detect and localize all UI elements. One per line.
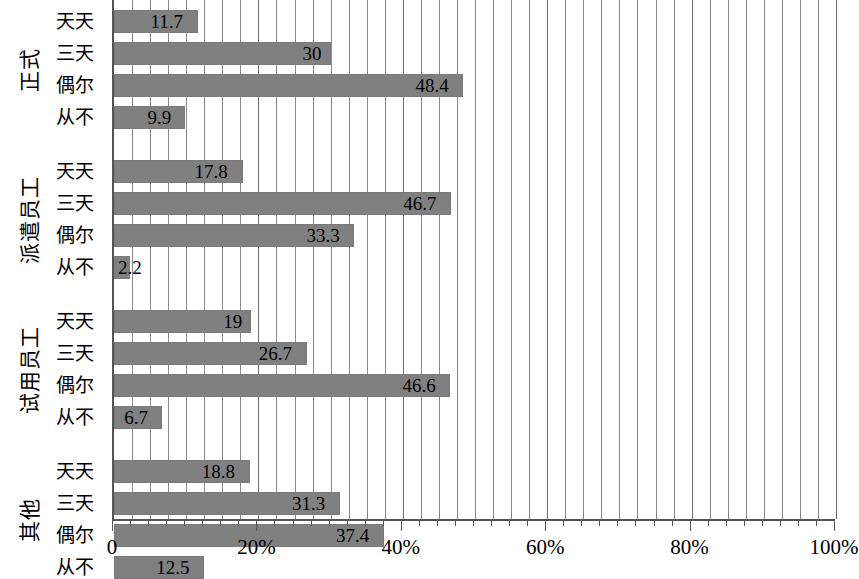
gridline-major bbox=[836, 0, 837, 519]
category-label: 偶尔 bbox=[56, 75, 108, 97]
gridline-minor bbox=[637, 0, 638, 519]
x-tick-minor bbox=[744, 519, 745, 526]
x-tick-minor bbox=[509, 519, 510, 526]
gridline-minor bbox=[764, 0, 765, 519]
group-label: 派遣员工 bbox=[0, 160, 56, 279]
bar-value-label: 17.8 bbox=[193, 160, 228, 183]
bar-value-label: 18.8 bbox=[200, 460, 235, 483]
category-label: 从不 bbox=[56, 407, 108, 429]
gridline-major bbox=[692, 0, 693, 519]
group-label-text: 试用员工 bbox=[13, 326, 43, 414]
x-tick-minor bbox=[780, 519, 781, 526]
x-tick-minor bbox=[166, 519, 167, 526]
gridline-minor bbox=[674, 0, 675, 519]
bar-value-label: 11.7 bbox=[148, 10, 183, 33]
group-label: 其他 bbox=[0, 460, 56, 579]
bar-value-label: 30 bbox=[301, 42, 322, 65]
category-label: 天天 bbox=[56, 161, 108, 183]
x-tick-minor bbox=[672, 519, 673, 526]
x-tick-minor bbox=[599, 519, 600, 526]
bar-value-label: 26.7 bbox=[257, 342, 292, 365]
x-tick-minor bbox=[238, 519, 239, 526]
gridline-minor bbox=[818, 0, 819, 519]
x-tick-minor bbox=[798, 519, 799, 526]
x-tick-minor bbox=[437, 519, 438, 526]
gridline-minor bbox=[782, 0, 783, 519]
category-label: 三天 bbox=[56, 193, 108, 215]
x-tick-minor bbox=[455, 519, 456, 526]
x-tick-major bbox=[401, 519, 402, 531]
bar-value-label: 19 bbox=[221, 310, 242, 333]
gridline-minor bbox=[800, 0, 801, 519]
gridline-minor bbox=[710, 0, 711, 519]
x-tick-minor bbox=[617, 519, 618, 526]
x-tick-minor bbox=[184, 519, 185, 526]
gridline-minor bbox=[493, 0, 494, 519]
bar bbox=[114, 42, 331, 65]
bar-value-label: 9.9 bbox=[145, 106, 171, 129]
bar-value-label: 12.5 bbox=[154, 556, 189, 579]
x-tick-minor bbox=[329, 519, 330, 526]
x-tick-minor bbox=[708, 519, 709, 526]
group-label-text: 其他 bbox=[13, 498, 43, 542]
bar-value-label: 6.7 bbox=[122, 406, 148, 429]
group-label: 正式 bbox=[0, 10, 56, 129]
gridline-minor bbox=[656, 0, 657, 519]
x-tick-label: 20% bbox=[237, 535, 276, 560]
x-tick-major bbox=[834, 519, 835, 531]
gridline-minor bbox=[601, 0, 602, 519]
category-label: 三天 bbox=[56, 43, 108, 65]
x-tick-major bbox=[256, 519, 257, 531]
bar-value-label: 46.7 bbox=[401, 192, 436, 215]
gridline-minor bbox=[619, 0, 620, 519]
group-axis: 正式派遣员工试用员工其他 bbox=[0, 0, 56, 519]
x-tick-minor bbox=[726, 519, 727, 526]
x-tick-label: 80% bbox=[670, 535, 709, 560]
bar-value-label: 31.3 bbox=[290, 492, 325, 515]
x-tick-minor bbox=[347, 519, 348, 526]
category-label: 偶尔 bbox=[56, 375, 108, 397]
group-label: 试用员工 bbox=[0, 310, 56, 429]
bar bbox=[114, 74, 463, 97]
x-tick-major bbox=[112, 519, 113, 531]
x-tick-major bbox=[545, 519, 546, 531]
bar-value-label: 37.4 bbox=[334, 524, 369, 547]
x-tick-minor bbox=[293, 519, 294, 526]
category-label: 三天 bbox=[56, 343, 108, 365]
x-tick-major bbox=[690, 519, 691, 531]
x-tick-minor bbox=[383, 519, 384, 526]
gridline-minor bbox=[475, 0, 476, 519]
bar-value-label: 33.3 bbox=[304, 224, 339, 247]
group-label-text: 正式 bbox=[13, 48, 43, 92]
category-label: 三天 bbox=[56, 493, 108, 515]
category-axis: 天天三天偶尔从不天天三天偶尔从不天天三天偶尔从不天天三天偶尔从不 bbox=[56, 0, 112, 519]
x-tick-minor bbox=[148, 519, 149, 526]
gridline-minor bbox=[746, 0, 747, 519]
category-label: 天天 bbox=[56, 11, 108, 33]
x-tick-minor bbox=[311, 519, 312, 526]
bar-value-label: 48.4 bbox=[413, 74, 448, 97]
category-label: 天天 bbox=[56, 311, 108, 333]
x-tick-minor bbox=[563, 519, 564, 526]
x-tick-minor bbox=[365, 519, 366, 526]
category-label: 偶尔 bbox=[56, 225, 108, 247]
x-tick-label: 60% bbox=[526, 535, 565, 560]
x-tick-minor bbox=[202, 519, 203, 526]
category-label: 偶尔 bbox=[56, 525, 108, 547]
bar-value-label: 2.2 bbox=[116, 256, 142, 279]
x-tick-minor bbox=[635, 519, 636, 526]
gridline-minor bbox=[511, 0, 512, 519]
x-tick-label: 40% bbox=[382, 535, 421, 560]
x-tick-label: 0 bbox=[107, 535, 118, 560]
x-tick-minor bbox=[274, 519, 275, 526]
gridline-minor bbox=[529, 0, 530, 519]
x-tick-minor bbox=[816, 519, 817, 526]
category-label: 从不 bbox=[56, 107, 108, 129]
gridline-minor bbox=[583, 0, 584, 519]
x-tick-minor bbox=[419, 519, 420, 526]
x-tick-minor bbox=[581, 519, 582, 526]
group-label-text: 派遣员工 bbox=[13, 176, 43, 264]
gridline-minor bbox=[565, 0, 566, 519]
category-label: 天天 bbox=[56, 461, 108, 483]
